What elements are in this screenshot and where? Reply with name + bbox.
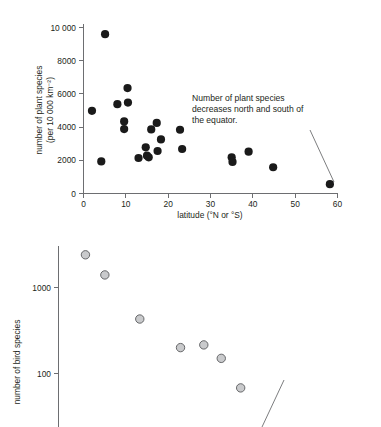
- plant-xticklabel-60: 60: [333, 199, 343, 209]
- bird-data-points: [81, 251, 245, 393]
- bird-data-point: [200, 341, 208, 349]
- plant-data-point: [157, 135, 165, 143]
- plant-data-point: [120, 125, 128, 133]
- plant-xticklabel-40: 40: [248, 199, 258, 209]
- plant-data-point: [123, 84, 131, 92]
- plant-data-point: [124, 98, 132, 106]
- plant-xticklabel-0: 0: [81, 199, 86, 209]
- plant-data-point: [228, 158, 236, 166]
- plant-data-point: [147, 125, 155, 133]
- bird-data-point: [136, 315, 144, 323]
- bird-species-scatter-plot: 1000 100 number of bird species: [0, 222, 381, 427]
- plant-data-point: [326, 180, 334, 188]
- bird-data-point: [217, 354, 225, 362]
- bird-data-point: [81, 251, 89, 259]
- bird-y-axis-title: number of bird species: [12, 320, 22, 405]
- bird-species-chart-panel: 1000 100 number of bird species As in ma…: [0, 222, 381, 427]
- textbook-figure: 10 000 8000 6000 4000 2000 0 0 10 20 30 …: [0, 0, 381, 427]
- plant-xticklabel-50: 50: [291, 199, 301, 209]
- bird-data-point: [101, 271, 109, 279]
- plant-x-axis-title: latitude (°N or °S): [177, 210, 243, 220]
- plant-yticklabel-4000: 4000: [57, 122, 76, 132]
- bird-data-point: [236, 384, 244, 392]
- plant-yticklabel-0: 0: [71, 189, 76, 199]
- plant-data-point: [153, 147, 161, 155]
- plant-data-point: [145, 153, 153, 161]
- plant-data-point: [120, 117, 128, 125]
- bird-annotation-leader-line: [262, 380, 284, 427]
- plant-data-point: [97, 157, 105, 165]
- plant-annotation-leader-line: [310, 130, 334, 182]
- plant-data-point: [101, 30, 109, 38]
- bird-chart-axes: [54, 246, 59, 427]
- plant-data-point: [153, 119, 161, 127]
- bird-data-point: [176, 343, 184, 351]
- plant-yticklabel-6000: 6000: [57, 89, 76, 99]
- bird-yticklabel-100: 100: [37, 369, 51, 379]
- plant-xticklabel-30: 30: [206, 199, 216, 209]
- plant-yticklabel-10000: 10 000: [50, 23, 76, 33]
- plant-xticklabel-10: 10: [121, 199, 131, 209]
- plant-data-point: [178, 145, 186, 153]
- plant-xticklabel-20: 20: [164, 199, 174, 209]
- plant-data-point: [176, 126, 184, 134]
- plant-species-scatter-plot: 10 000 8000 6000 4000 2000 0 0 10 20 30 …: [0, 0, 381, 222]
- plant-y-axis-title-line2: (per 10 000 km⁻²): [45, 77, 55, 143]
- plant-y-axis-title-line1: number of plant species: [34, 66, 44, 155]
- plant-data-point: [142, 143, 150, 151]
- bird-yticklabel-1000: 1000: [32, 283, 51, 293]
- plant-data-point: [88, 107, 96, 115]
- plant-data-point: [269, 163, 277, 171]
- plant-species-chart-panel: 10 000 8000 6000 4000 2000 0 0 10 20 30 …: [0, 0, 381, 222]
- plant-yticklabel-2000: 2000: [57, 155, 76, 165]
- plant-data-point: [134, 154, 142, 162]
- plant-data-point: [245, 148, 253, 156]
- plant-data-point: [113, 100, 121, 108]
- plant-yticklabel-8000: 8000: [57, 56, 76, 66]
- plant-chart-annotation: Number of plant species decreases north …: [192, 93, 317, 127]
